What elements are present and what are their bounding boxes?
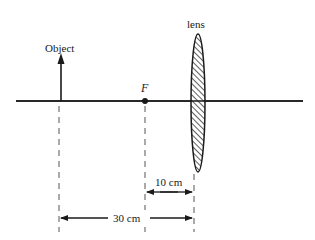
lens-shape (191, 34, 205, 172)
focal-point-dot (142, 98, 148, 104)
dim-30cm-label: 30 cm (113, 212, 141, 224)
dim-10cm-label: 10 cm (155, 176, 183, 188)
object-label: Object (45, 42, 74, 54)
object-arrowhead-icon (58, 53, 65, 64)
lens-diagram: Object lens F 10 cm 30 cm (0, 0, 315, 240)
lens-label: lens (187, 18, 205, 30)
focal-point-label: F (140, 81, 149, 95)
